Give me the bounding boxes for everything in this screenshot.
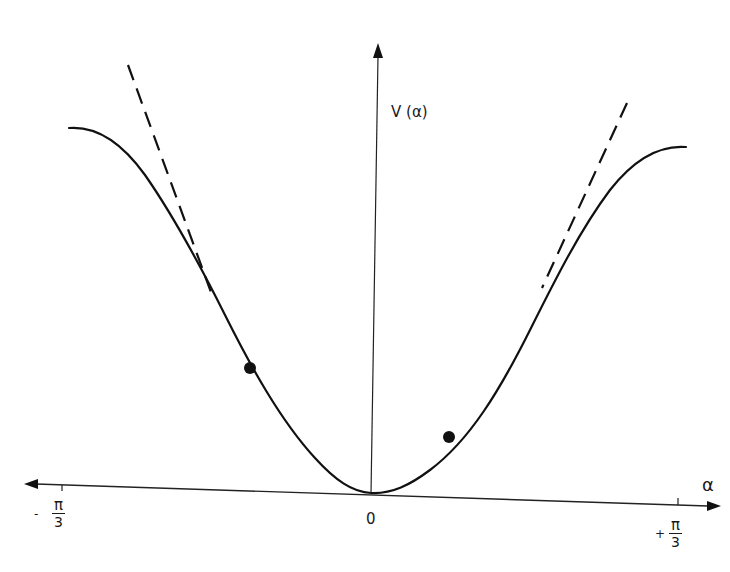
denominator: 3 [52,514,65,531]
dashed-approximation-right [542,103,627,288]
potential-diagram: V (α) α 0 - π 3 + π 3 [0,0,730,572]
numerator: π [669,517,682,534]
x-axis-left-arrow-icon [24,479,38,489]
y-axis-arrow-icon [373,43,383,58]
sign: - [34,507,38,521]
x-axis-right-arrow-icon [707,501,721,511]
numerator: π [52,497,65,514]
tick-label-plus-pi-over-3: + π 3 [669,517,682,551]
marker-dot-left [244,362,256,374]
marker-dot-right [443,431,455,443]
y-axis [371,56,378,494]
y-axis-label: V (α) [391,105,428,120]
dashed-approximation-left [128,65,212,295]
sign: + [655,527,665,541]
x-axis-label: α [702,476,714,494]
tick-label-zero: 0 [366,512,376,527]
tick-label-minus-pi-over-3: - π 3 [52,497,65,531]
denominator: 3 [669,534,682,551]
potential-curve [69,128,686,493]
plot-canvas [0,0,730,572]
x-axis [36,484,708,506]
